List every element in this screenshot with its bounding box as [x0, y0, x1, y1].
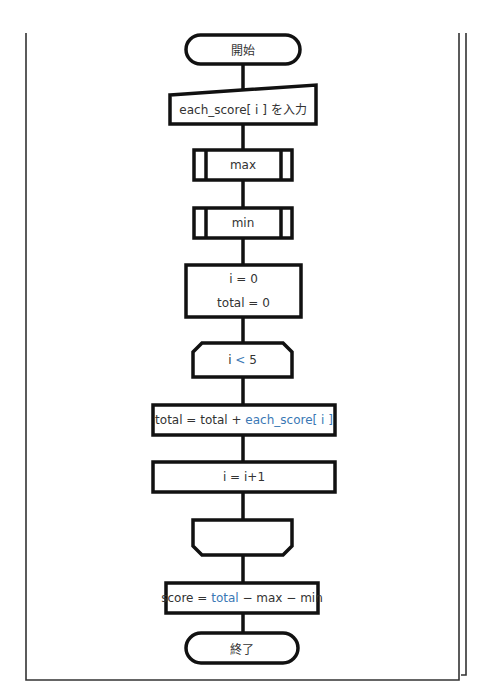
loop-var: i	[228, 353, 235, 367]
accumulate-pre: total = total +	[155, 413, 245, 427]
score-post: − max − min	[239, 591, 323, 605]
start-label: 開始	[186, 35, 300, 64]
loop-end-label	[193, 520, 292, 555]
input-label: each_score[ i ] を入力	[170, 92, 316, 124]
accumulate-highlight: each_score[ i ]	[245, 413, 333, 427]
min-label: min	[194, 208, 292, 238]
loop-operator: <	[235, 353, 245, 367]
score-highlight: total	[211, 591, 238, 605]
score-label: score = total − max − min	[166, 583, 318, 613]
init-line1: i = 0	[186, 268, 301, 290]
score-pre: score =	[161, 591, 211, 605]
accumulate-label: total = total + each_score[ i ]	[153, 405, 335, 435]
loop-limit: 5	[245, 353, 256, 367]
max-label: max	[194, 150, 292, 180]
increment-label: i = i+1	[153, 462, 335, 492]
loop-start-label: i < 5	[193, 343, 292, 377]
init-line2: total = 0	[186, 292, 301, 314]
end-label: 終了	[186, 633, 298, 663]
